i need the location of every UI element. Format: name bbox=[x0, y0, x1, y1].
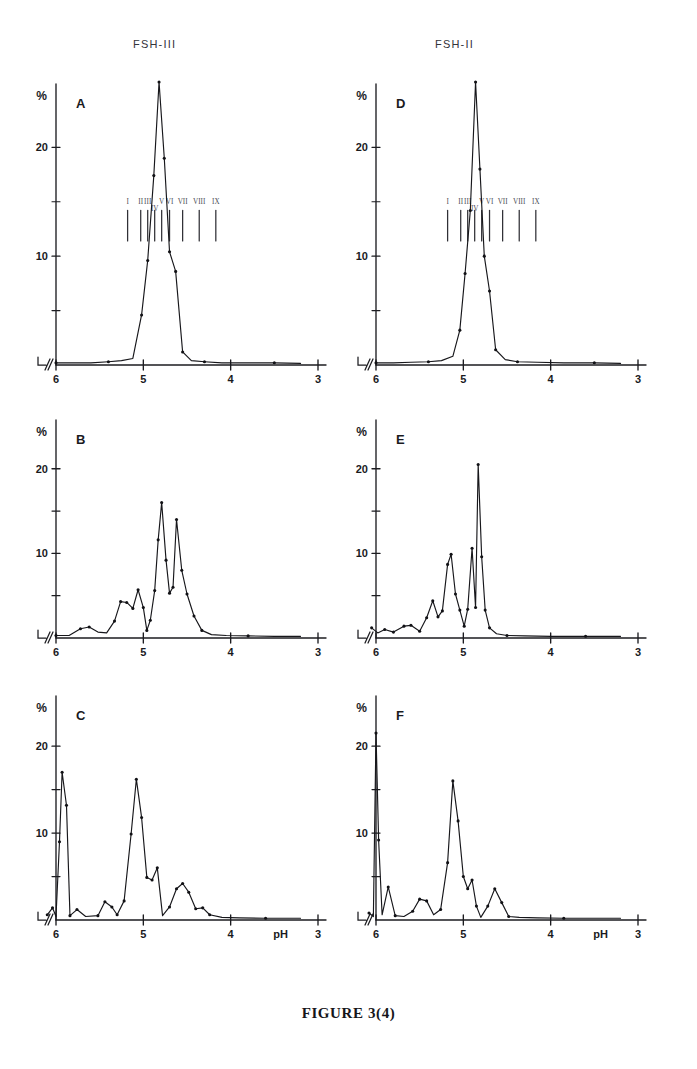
y-tick-label: 20 bbox=[356, 740, 368, 752]
component-label: VIII bbox=[193, 198, 206, 206]
data-point bbox=[425, 616, 428, 619]
x-tick-label: 6 bbox=[373, 646, 379, 658]
x-tick-label: 4 bbox=[228, 373, 235, 385]
data-point bbox=[370, 626, 373, 629]
data-point bbox=[79, 627, 82, 630]
data-point bbox=[158, 80, 161, 83]
x-tick-label: 6 bbox=[53, 928, 59, 940]
data-point bbox=[51, 906, 54, 909]
data-curve bbox=[56, 82, 301, 363]
y-tick-label: 10 bbox=[36, 547, 48, 559]
y-axis-title: % bbox=[356, 701, 367, 715]
data-point bbox=[377, 838, 380, 841]
data-point bbox=[185, 592, 188, 595]
data-point bbox=[427, 360, 430, 363]
component-label: VII bbox=[178, 198, 189, 206]
y-tick-label: 10 bbox=[356, 547, 368, 559]
x-tick-label: 5 bbox=[460, 373, 466, 385]
panel-c-chart: 1020%C6543pH bbox=[18, 672, 328, 944]
data-point bbox=[478, 168, 481, 171]
panel-a-chart: 1020%A6543IIIIIIIVVVIVIIVIIIIX bbox=[18, 70, 328, 390]
x-tick-label: 6 bbox=[373, 928, 379, 940]
x-tick-label: 4 bbox=[228, 646, 235, 658]
data-point bbox=[431, 599, 434, 602]
x-tick-label: 5 bbox=[460, 646, 466, 658]
data-point bbox=[418, 630, 421, 633]
y-tick-label: 20 bbox=[356, 141, 368, 153]
data-point bbox=[484, 609, 487, 612]
x-tick-label: 6 bbox=[53, 373, 59, 385]
data-point bbox=[54, 634, 57, 637]
x-tick-label: 5 bbox=[460, 928, 466, 940]
data-point bbox=[146, 259, 149, 262]
data-point bbox=[119, 600, 122, 603]
data-point bbox=[65, 804, 68, 807]
data-point bbox=[187, 891, 190, 894]
x-tick-label: 4 bbox=[548, 928, 555, 940]
data-point bbox=[493, 887, 496, 890]
y-axis-title: % bbox=[36, 701, 47, 715]
data-point bbox=[383, 628, 386, 631]
panel-b-svg: 1020%B6543 bbox=[18, 400, 328, 662]
y-tick-label: 20 bbox=[36, 740, 48, 752]
data-point bbox=[203, 360, 206, 363]
data-point bbox=[142, 606, 145, 609]
data-point bbox=[157, 538, 160, 541]
data-point bbox=[392, 631, 395, 634]
panel-b-chart: 1020%B6543 bbox=[18, 400, 328, 662]
component-label: II bbox=[138, 198, 143, 206]
data-point bbox=[394, 914, 397, 917]
data-point bbox=[439, 908, 442, 911]
x-tick-label: 5 bbox=[140, 646, 146, 658]
data-point bbox=[516, 360, 519, 363]
data-curve bbox=[56, 503, 301, 637]
data-point bbox=[145, 629, 148, 632]
panel-letter: D bbox=[396, 96, 406, 111]
component-label: II bbox=[458, 198, 463, 206]
y-axis-title: % bbox=[356, 425, 367, 439]
data-point bbox=[436, 615, 439, 618]
data-point bbox=[113, 620, 116, 623]
data-point bbox=[457, 819, 460, 822]
y-tick-label: 10 bbox=[356, 827, 368, 839]
panel-f-chart: 1020%F6543pH bbox=[338, 672, 648, 944]
y-tick-label: 10 bbox=[356, 250, 368, 262]
data-point bbox=[446, 861, 449, 864]
data-point bbox=[477, 463, 480, 466]
data-point bbox=[145, 876, 148, 879]
data-point bbox=[58, 840, 61, 843]
data-point bbox=[152, 174, 155, 177]
data-point bbox=[425, 899, 428, 902]
data-point bbox=[171, 586, 174, 589]
y-axis-title: % bbox=[36, 425, 47, 439]
data-point bbox=[175, 518, 178, 521]
data-point bbox=[208, 913, 211, 916]
column-title-fsh-ii: FSH-II bbox=[435, 38, 474, 50]
data-point bbox=[168, 905, 171, 908]
data-point bbox=[116, 913, 119, 916]
data-point bbox=[466, 887, 469, 890]
panel-letter: B bbox=[76, 432, 86, 447]
data-point bbox=[131, 607, 134, 610]
data-point bbox=[446, 563, 449, 566]
data-point bbox=[168, 592, 171, 595]
data-point bbox=[374, 732, 377, 735]
data-point bbox=[264, 917, 267, 920]
y-axis-title: % bbox=[356, 89, 367, 103]
panel-letter: E bbox=[396, 432, 405, 447]
data-point bbox=[88, 625, 91, 628]
panel-letter: A bbox=[76, 96, 86, 111]
data-point bbox=[374, 361, 377, 364]
panel-e-svg: 1020%E6543 bbox=[338, 400, 648, 662]
data-point bbox=[164, 559, 167, 562]
data-point bbox=[174, 270, 177, 273]
data-point bbox=[593, 361, 596, 364]
data-point bbox=[192, 614, 195, 617]
data-point bbox=[462, 875, 465, 878]
data-point bbox=[458, 609, 461, 612]
axis-break-mark bbox=[38, 912, 53, 925]
x-axis-title: pH bbox=[593, 928, 608, 940]
data-point bbox=[125, 601, 128, 604]
x-tick-label: 3 bbox=[635, 928, 641, 940]
data-point bbox=[194, 907, 197, 910]
